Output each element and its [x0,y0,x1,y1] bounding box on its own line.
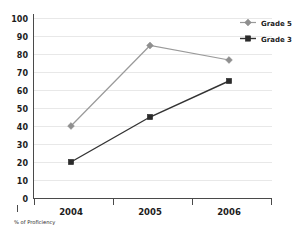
legend-item-grade-3[interactable]: Grade 3 [240,36,292,44]
legend-marker-square-icon [245,36,250,41]
series-grade-3 [68,78,231,164]
y-tick-label: 90 [17,33,29,42]
x-axis-tick-labels: 2004 2005 2006 [59,207,241,217]
x-axis-ticks [35,199,272,206]
y-tick-label: 20 [17,159,29,168]
data-point-grade-3-2004 [68,159,73,164]
legend-marker-diamond-icon [245,19,252,26]
y-tick-label: 50 [17,105,29,114]
chart-container: 100 90 80 70 60 50 40 30 20 10 0 2004 20… [0,0,298,234]
line-chart: 100 90 80 70 60 50 40 30 20 10 0 2004 20… [0,0,298,234]
x-tick-label-2004: 2004 [59,207,83,217]
gridlines [34,19,272,181]
series-line-grade-5 [71,46,229,127]
x-axis-caption: % of Proficiency [14,219,55,226]
x-tick-label-2005: 2005 [138,207,162,217]
y-axis-tick-labels: 100 90 80 70 60 50 40 30 20 10 0 [11,15,28,204]
data-point-grade-3-2006 [226,78,231,83]
y-tick-label: 70 [17,69,29,78]
y-tick-label: 10 [17,177,29,186]
series-line-grade-3 [71,81,229,162]
x-tick-label-2006: 2006 [217,207,241,217]
y-tick-label: 100 [11,15,28,24]
y-tick-label: 40 [17,123,29,132]
legend-label-grade-3: Grade 3 [261,36,292,44]
y-tick-label: 60 [17,87,29,96]
legend-label-grade-5: Grade 5 [261,20,292,28]
data-point-grade-3-2005 [147,114,152,119]
legend-item-grade-5[interactable]: Grade 5 [240,19,292,27]
data-point-grade-5-2006 [226,57,233,64]
y-tick-label: 0 [22,195,28,204]
y-tick-label: 30 [17,141,29,150]
chart-legend: Grade 5 Grade 3 [240,19,292,43]
y-tick-label: 80 [17,51,29,60]
